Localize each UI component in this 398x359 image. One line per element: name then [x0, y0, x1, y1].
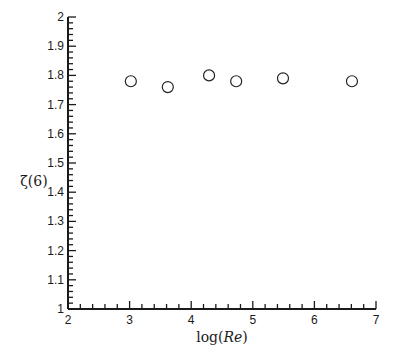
x-tick-label: 6 — [311, 313, 318, 327]
x-tick-label: 3 — [126, 313, 133, 327]
y-tick-label: 1.2 — [47, 244, 64, 258]
x-tick-label: 4 — [188, 313, 195, 327]
y-tick-label: 2 — [57, 10, 64, 24]
y-axis: 11.11.21.31.41.51.61.71.81.92 — [47, 10, 76, 316]
data-point-marker — [231, 76, 242, 87]
x-axis-title: log(Re) — [196, 329, 248, 345]
x-tick-label: 5 — [249, 313, 256, 327]
data-points — [125, 70, 357, 93]
y-tick-label: 1.1 — [47, 273, 64, 287]
y-tick-label: 1 — [57, 302, 64, 316]
y-axis-title: ζ(6) — [20, 173, 47, 189]
y-tick-label: 1.5 — [47, 156, 64, 170]
data-point-marker — [346, 76, 357, 87]
y-tick-label: 1.3 — [47, 214, 64, 228]
x-axis: 234567 — [65, 301, 380, 327]
y-tick-label: 1.8 — [47, 68, 64, 82]
y-tick-label: 1.9 — [47, 39, 64, 53]
data-point-marker — [125, 76, 136, 87]
x-tick-label: 7 — [373, 313, 380, 327]
x-tick-label: 2 — [65, 313, 72, 327]
data-point-marker — [277, 73, 288, 84]
data-point-marker — [204, 70, 215, 81]
y-tick-label: 1.4 — [47, 185, 64, 199]
y-tick-label: 1.6 — [47, 127, 64, 141]
scatter-chart: 11.11.21.31.41.51.61.71.81.92 234567 ζ(6… — [0, 0, 398, 359]
y-tick-label: 1.7 — [47, 98, 64, 112]
data-point-marker — [162, 82, 173, 93]
